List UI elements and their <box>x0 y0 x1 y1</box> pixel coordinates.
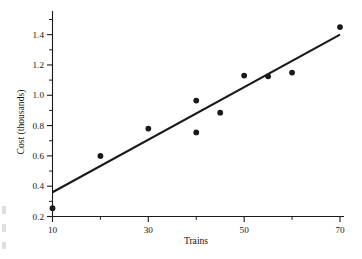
data-point <box>145 126 151 132</box>
data-points <box>50 24 343 211</box>
page-edge-fragment-3 <box>2 242 6 249</box>
data-point <box>289 70 295 76</box>
page-edge-fragment-2 <box>2 224 6 232</box>
y-tick-label: 0.8 <box>33 121 45 131</box>
y-tick-label: 1.0 <box>33 90 45 100</box>
y-axis-major-ticks <box>47 35 53 217</box>
x-tick-label: 50 <box>240 225 250 235</box>
data-point <box>217 110 223 116</box>
data-point <box>265 73 271 79</box>
data-point <box>193 98 199 104</box>
x-axis-tick-labels: 10305070 <box>48 225 345 235</box>
x-tick-label: 30 <box>144 225 154 235</box>
x-axis-title: Trains <box>184 235 208 246</box>
data-point <box>98 153 104 159</box>
plot-axes <box>53 11 345 217</box>
data-point <box>193 129 199 135</box>
y-tick-label: 0.2 <box>33 212 45 222</box>
chart-page: 0.20.40.60.81.01.21.4 10305070 Trains Co… <box>0 0 362 259</box>
y-tick-label: 0.4 <box>33 181 45 191</box>
y-tick-label: 0.6 <box>33 151 45 161</box>
regression-line <box>53 35 341 193</box>
y-axis-title: Cost (thousands) <box>15 90 27 155</box>
data-point <box>337 24 343 30</box>
data-point <box>241 73 247 79</box>
y-tick-label: 1.2 <box>33 60 45 70</box>
page-edge-artifacts <box>2 206 6 249</box>
x-tick-label: 10 <box>48 225 58 235</box>
data-point <box>50 205 56 211</box>
scatter-plot-figure: 0.20.40.60.81.01.21.4 10305070 Trains Co… <box>0 0 362 259</box>
page-edge-fragment-1 <box>2 206 6 214</box>
y-tick-label: 1.4 <box>33 30 45 40</box>
x-tick-label: 70 <box>335 225 345 235</box>
y-axis-tick-labels: 0.20.40.60.81.01.21.4 <box>33 30 45 222</box>
